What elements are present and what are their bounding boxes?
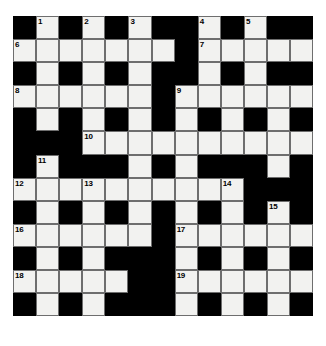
crossword-open-cell[interactable] (267, 85, 290, 108)
crossword-open-cell[interactable] (82, 270, 105, 293)
crossword-open-cell[interactable] (36, 293, 59, 316)
crossword-open-cell[interactable] (36, 247, 59, 270)
crossword-open-cell[interactable] (244, 224, 267, 247)
crossword-open-cell[interactable] (267, 247, 290, 270)
crossword-open-cell[interactable] (221, 247, 244, 270)
crossword-open-cell[interactable]: 3 (128, 16, 151, 39)
crossword-open-cell[interactable] (221, 108, 244, 131)
crossword-open-cell[interactable] (82, 85, 105, 108)
crossword-open-cell[interactable]: 1 (36, 16, 59, 39)
crossword-open-cell[interactable] (128, 201, 151, 224)
crossword-open-cell[interactable] (244, 270, 267, 293)
crossword-open-cell[interactable] (175, 178, 198, 201)
crossword-open-cell[interactable] (82, 62, 105, 85)
crossword-open-cell[interactable]: 14 (221, 178, 244, 201)
crossword-open-cell[interactable] (36, 270, 59, 293)
crossword-open-cell[interactable] (221, 85, 244, 108)
crossword-open-cell[interactable] (267, 270, 290, 293)
crossword-open-cell[interactable] (36, 224, 59, 247)
crossword-open-cell[interactable] (36, 85, 59, 108)
crossword-open-cell[interactable] (221, 293, 244, 316)
crossword-open-cell[interactable] (267, 39, 290, 62)
crossword-open-cell[interactable] (175, 247, 198, 270)
crossword-open-cell[interactable] (105, 131, 128, 154)
crossword-open-cell[interactable] (175, 155, 198, 178)
crossword-open-cell[interactable] (221, 131, 244, 154)
crossword-open-cell[interactable] (175, 108, 198, 131)
crossword-open-cell[interactable] (36, 201, 59, 224)
crossword-open-cell[interactable] (175, 131, 198, 154)
crossword-open-cell[interactable] (128, 85, 151, 108)
crossword-open-cell[interactable] (290, 39, 313, 62)
crossword-open-cell[interactable]: 2 (82, 16, 105, 39)
crossword-grid[interactable]: 12345678910111213141516171819 (13, 16, 313, 316)
crossword-open-cell[interactable]: 6 (13, 39, 36, 62)
crossword-open-cell[interactable] (82, 201, 105, 224)
crossword-open-cell[interactable] (105, 178, 128, 201)
crossword-open-cell[interactable] (290, 270, 313, 293)
crossword-open-cell[interactable] (175, 201, 198, 224)
crossword-open-cell[interactable] (244, 39, 267, 62)
crossword-open-cell[interactable] (221, 224, 244, 247)
crossword-open-cell[interactable] (244, 62, 267, 85)
crossword-open-cell[interactable]: 7 (198, 39, 221, 62)
crossword-open-cell[interactable] (221, 270, 244, 293)
crossword-open-cell[interactable] (128, 39, 151, 62)
crossword-open-cell[interactable] (128, 108, 151, 131)
crossword-open-cell[interactable]: 10 (82, 131, 105, 154)
crossword-open-cell[interactable] (105, 39, 128, 62)
crossword-open-cell[interactable] (198, 270, 221, 293)
crossword-open-cell[interactable] (59, 39, 82, 62)
crossword-open-cell[interactable] (82, 293, 105, 316)
crossword-open-cell[interactable]: 4 (198, 16, 221, 39)
crossword-open-cell[interactable] (82, 247, 105, 270)
crossword-open-cell[interactable]: 11 (36, 155, 59, 178)
crossword-open-cell[interactable]: 18 (13, 270, 36, 293)
crossword-open-cell[interactable]: 19 (175, 270, 198, 293)
crossword-open-cell[interactable]: 17 (175, 224, 198, 247)
crossword-open-cell[interactable] (290, 85, 313, 108)
crossword-open-cell[interactable] (221, 201, 244, 224)
crossword-open-cell[interactable]: 5 (244, 16, 267, 39)
crossword-open-cell[interactable] (36, 108, 59, 131)
crossword-open-cell[interactable] (59, 85, 82, 108)
crossword-open-cell[interactable] (105, 85, 128, 108)
crossword-open-cell[interactable] (36, 39, 59, 62)
crossword-open-cell[interactable] (198, 131, 221, 154)
crossword-open-cell[interactable] (128, 155, 151, 178)
crossword-open-cell[interactable] (59, 224, 82, 247)
crossword-open-cell[interactable] (128, 62, 151, 85)
crossword-open-cell[interactable] (128, 224, 151, 247)
crossword-open-cell[interactable] (267, 131, 290, 154)
crossword-open-cell[interactable] (152, 131, 175, 154)
crossword-open-cell[interactable]: 12 (13, 178, 36, 201)
crossword-open-cell[interactable] (82, 108, 105, 131)
crossword-open-cell[interactable] (198, 224, 221, 247)
crossword-open-cell[interactable]: 16 (13, 224, 36, 247)
crossword-open-cell[interactable]: 8 (13, 85, 36, 108)
crossword-open-cell[interactable] (59, 270, 82, 293)
crossword-open-cell[interactable]: 9 (175, 85, 198, 108)
crossword-open-cell[interactable] (36, 62, 59, 85)
crossword-open-cell[interactable] (244, 85, 267, 108)
crossword-open-cell[interactable] (152, 39, 175, 62)
crossword-open-cell[interactable] (267, 155, 290, 178)
crossword-open-cell[interactable] (267, 224, 290, 247)
crossword-open-cell[interactable] (267, 293, 290, 316)
crossword-open-cell[interactable] (128, 131, 151, 154)
crossword-open-cell[interactable] (244, 131, 267, 154)
crossword-open-cell[interactable] (198, 178, 221, 201)
crossword-open-cell[interactable] (290, 131, 313, 154)
crossword-open-cell[interactable] (128, 178, 151, 201)
crossword-open-cell[interactable] (267, 108, 290, 131)
crossword-open-cell[interactable] (105, 224, 128, 247)
crossword-open-cell[interactable]: 15 (267, 201, 290, 224)
crossword-open-cell[interactable] (82, 224, 105, 247)
crossword-open-cell[interactable] (105, 270, 128, 293)
crossword-open-cell[interactable] (198, 62, 221, 85)
crossword-open-cell[interactable] (36, 178, 59, 201)
crossword-open-cell[interactable] (290, 224, 313, 247)
crossword-open-cell[interactable] (82, 39, 105, 62)
crossword-open-cell[interactable] (198, 85, 221, 108)
crossword-open-cell[interactable] (59, 178, 82, 201)
